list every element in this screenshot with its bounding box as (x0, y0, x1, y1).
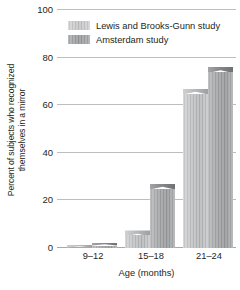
chart-legend: Lewis and Brooks-Gunn study Amsterdam st… (68, 19, 238, 47)
legend-label-amsterdam: Amsterdam study (96, 35, 168, 45)
bar-chart-figure: Percent of subjects who recognized thems… (0, 0, 240, 290)
x-tick-label-9-12: 9–12 (83, 251, 104, 261)
legend-item-amsterdam: Amsterdam study (68, 33, 238, 46)
bar-amsterdam-9-12 (92, 243, 117, 249)
x-axis-tick-labels: 9–12 15–18 21–24 (57, 251, 236, 267)
y-axis-title: Percent of subjects who recognized thems… (0, 20, 34, 240)
y-axis-title-line-2: themselves in a mirror (17, 89, 27, 171)
legend-item-lewis: Lewis and Brooks-Gunn study (68, 19, 238, 32)
y-tick-label-40: 40 (42, 146, 53, 157)
bar-lewis-9-12 (67, 245, 92, 248)
bar-body (208, 72, 233, 248)
bar-amsterdam-15-18 (150, 184, 175, 249)
y-tick-label-20: 20 (42, 194, 53, 205)
x-axis-title: Age (months) (57, 268, 236, 278)
y-tick-label-100: 100 (37, 4, 53, 15)
bar-lewis-15-18 (125, 230, 150, 248)
x-tick-label-15-18: 15–18 (138, 251, 164, 261)
bar-amsterdam-21-24 (208, 67, 233, 248)
bar-body (150, 189, 175, 249)
y-tick-label-80: 80 (42, 51, 53, 62)
y-tick-label-60: 60 (42, 99, 53, 110)
bar-lewis-21-24 (183, 89, 208, 249)
bar-body (92, 246, 117, 249)
x-tick-label-21-24: 21–24 (196, 251, 222, 261)
y-axis-title-wrapper: Percent of subjects who recognized thems… (0, 0, 34, 260)
bar-body (125, 235, 150, 248)
legend-swatch-lewis-icon (68, 21, 90, 30)
legend-label-lewis: Lewis and Brooks-Gunn study (96, 21, 220, 31)
y-axis-title-line-1: Percent of subjects who recognized (6, 64, 16, 196)
bar-body (183, 94, 208, 249)
y-tick-label-0: 0 (48, 242, 53, 253)
legend-swatch-amsterdam-icon (68, 35, 90, 44)
